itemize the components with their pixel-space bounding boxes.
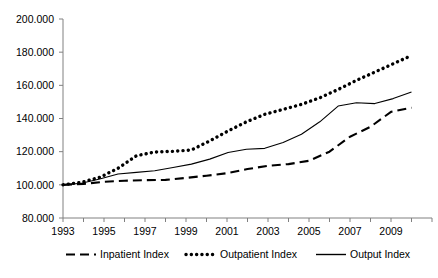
legend-label: Inpatient Index xyxy=(100,248,170,260)
series-inpatient-index xyxy=(63,108,412,185)
x-tick-label: 2009 xyxy=(379,225,403,237)
legend-item: Inpatient Index xyxy=(66,248,170,260)
x-tick-label: 1999 xyxy=(174,225,198,237)
legend-label: Output Index xyxy=(350,248,411,260)
legend-item: Outpatient Index xyxy=(186,248,298,260)
x-tick-label: 2007 xyxy=(338,225,362,237)
line-chart: 80.000100.000120.000140.000160.000180.00… xyxy=(0,0,438,278)
x-tick-label: 1995 xyxy=(92,225,116,237)
series-outpatient-index xyxy=(63,55,412,184)
y-tick-label: 180.000 xyxy=(16,46,54,58)
y-tick-label: 120.000 xyxy=(16,145,54,157)
y-tick-label: 140.000 xyxy=(16,112,54,124)
chart-legend: Inpatient IndexOutpatient IndexOutput In… xyxy=(66,248,411,260)
chart-axes xyxy=(63,19,432,218)
y-tick-label: 80.000 xyxy=(22,212,54,224)
legend-item: Output Index xyxy=(316,248,411,260)
x-tick-label: 1997 xyxy=(133,225,157,237)
y-tick-label: 160.000 xyxy=(16,79,54,91)
y-axis-ticks: 80.000100.000120.000140.000160.000180.00… xyxy=(16,13,63,224)
y-tick-label: 200.000 xyxy=(16,13,54,25)
x-tick-label: 2003 xyxy=(256,225,280,237)
y-tick-label: 100.000 xyxy=(16,179,54,191)
x-tick-label: 1993 xyxy=(51,225,75,237)
x-tick-label: 2001 xyxy=(215,225,239,237)
legend-label: Outpatient Index xyxy=(220,248,298,260)
chart-container: 80.000100.000120.000140.000160.000180.00… xyxy=(0,0,438,278)
x-axis-ticks: 199319951997199920012003200520072009 xyxy=(51,218,432,237)
x-tick-label: 2005 xyxy=(297,225,321,237)
